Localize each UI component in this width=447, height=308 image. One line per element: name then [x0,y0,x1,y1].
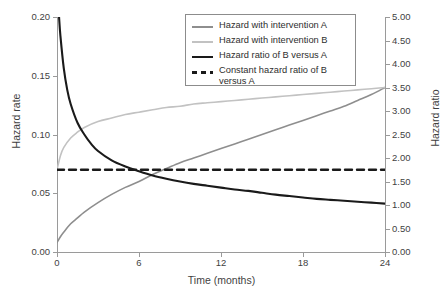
x-axis-tick-label: 0 [42,258,72,268]
y-axis-right-tick-mark [386,17,390,18]
y-axis-right-tick-label: 3.50 [392,83,426,93]
y-axis-left-tick-label: 0.10 [18,130,50,140]
y-axis-right-tick-mark [386,158,390,159]
legend-item-label: Hazard with intervention A [219,20,327,31]
legend-item-label: Hazard with intervention B [219,35,328,46]
x-axis-tick-mark [221,253,222,257]
legend-item-label: Hazard ratio of B versus A [219,50,327,61]
y-axis-right-tick-label: 1.50 [392,177,426,187]
x-axis-tick-mark [139,253,140,257]
legend-line-swatch [191,51,214,62]
y-axis-right-tick-label: 2.00 [392,153,426,163]
y-axis-right-tick-mark [386,182,390,183]
y-axis-right-tick-label: 0.00 [392,247,426,257]
y-axis-right-tick-label: 2.50 [392,130,426,140]
legend-line-swatch [191,21,214,32]
y-axis-right-tick-label: 5.00 [392,12,426,22]
x-axis-tick-mark [385,253,386,257]
legend-item[interactable]: Hazard with intervention B [191,35,351,47]
y-axis-left-tick-label: 0.20 [18,12,50,22]
y-axis-left-tick-label: 0.00 [18,247,50,257]
y-axis-right-title: Hazard ratio [429,78,441,158]
x-axis-tick-label: 24 [370,258,400,268]
y-axis-right-tick-mark [386,229,390,230]
x-axis-tick-mark [303,253,304,257]
y-axis-right-tick-label: 3.00 [392,106,426,116]
y-axis-right-tick-mark [386,252,390,253]
y-axis-right-tick-label: 4.50 [392,36,426,46]
x-axis-tick-label: 12 [206,258,236,268]
figure-container: 0.000.050.100.150.20 0.000.501.001.502.0… [0,0,447,308]
x-axis-tick-mark [57,253,58,257]
x-axis-title: Time (months) [57,274,386,286]
y-axis-right-tick-mark [386,111,390,112]
y-axis-left-tick-label: 0.15 [18,71,50,81]
y-axis-right-tick-mark [386,135,390,136]
x-axis-tick-label: 6 [124,258,154,268]
y-axis-right-tick-label: 1.00 [392,200,426,210]
legend-item[interactable]: Constant hazard ratio of B versus A [191,65,351,86]
y-axis-right-tick-label: 4.00 [392,59,426,69]
legend-item-label: Constant hazard ratio of B versus A [219,65,351,86]
y-axis-right-tick-mark [386,205,390,206]
y-axis-left-tick-label: 0.05 [18,188,50,198]
legend-item[interactable]: Hazard with intervention A [191,20,351,32]
legend-line-swatch [191,66,214,77]
y-axis-right-tick-mark [386,41,390,42]
legend-line-swatch [191,36,214,47]
y-axis-left-title: Hazard rate [10,81,22,161]
series-line [57,88,385,243]
legend-box: Hazard with intervention AHazard with in… [185,14,356,86]
y-axis-right-tick-mark [386,64,390,65]
x-axis-tick-label: 18 [288,258,318,268]
y-axis-right-tick-mark [386,88,390,89]
figure-caption [14,298,434,307]
legend-item[interactable]: Hazard ratio of B versus A [191,50,351,62]
y-axis-right-tick-label: 0.50 [392,224,426,234]
